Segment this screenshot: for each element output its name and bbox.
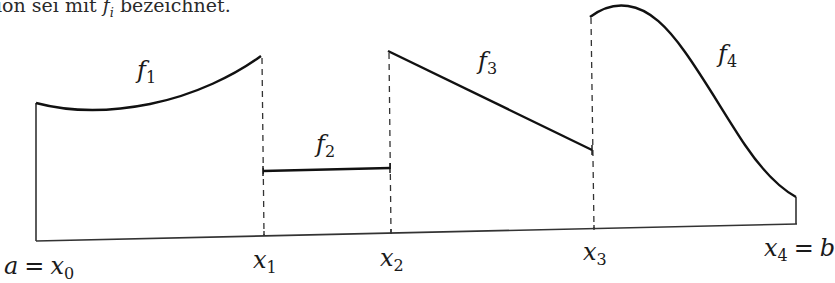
x-axis-baseline [36,224,797,241]
label-x3: x3 [583,240,607,268]
function-f2-segment [263,168,390,171]
function-f4-curve [590,5,796,197]
label-x2: x2 [380,246,404,274]
label-f4: f4 [718,42,737,70]
partition-dash-x2 [389,53,391,233]
partition-dash-x3 [591,18,594,229]
label-a-equals-x0: a=x0 [4,254,74,282]
label-x1: x1 [253,248,277,276]
label-x4-equals-b: x4=b [764,236,835,264]
label-f1: f1 [137,58,156,86]
partition-dash-x1 [262,58,264,235]
label-f3: f3 [478,49,497,77]
label-f2: f2 [316,132,335,160]
